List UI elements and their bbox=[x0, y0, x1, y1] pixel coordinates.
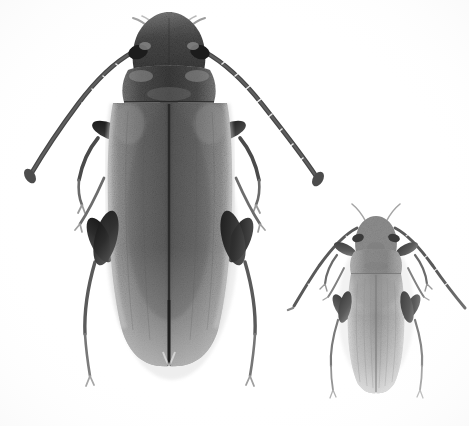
plate-vignette bbox=[0, 0, 469, 426]
specimen-photograph bbox=[0, 0, 469, 426]
specimen-plate bbox=[0, 0, 469, 426]
